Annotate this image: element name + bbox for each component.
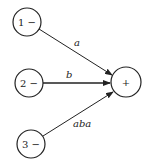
node-1: 1 − [13,8,41,36]
summing-node: + [111,67,141,97]
diagram-canvas: a b aba 1 − 2 − 3 − + [0,0,151,168]
node-3: 3 − [17,130,45,158]
edge-label-a: a [74,37,80,48]
summing-node-label: + [122,77,130,88]
node-3-label: 3 − [22,139,40,150]
edge-1-to-sum [39,29,112,75]
node-1-label: 1 − [18,17,36,28]
node-2-label: 2 − [20,78,38,89]
edge-3-to-sum [43,92,113,136]
node-2: 2 − [15,69,43,97]
flow-graph: a b aba 1 − 2 − 3 − + [0,0,151,168]
edge-label-b: b [66,69,72,80]
edge-label-aba: aba [73,118,91,129]
